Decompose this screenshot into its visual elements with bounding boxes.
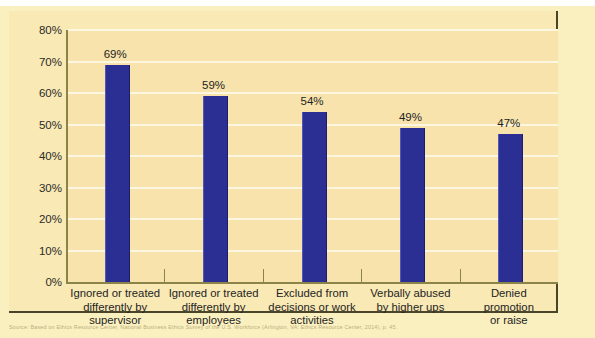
gridline [68, 61, 558, 63]
bar [105, 65, 130, 282]
source-note: Source: Based on Ethics Resource Center,… [9, 324, 589, 331]
x-axis-category-label: Verbally abusedby higher ups [370, 287, 450, 314]
gridline [68, 92, 558, 94]
y-axis-tick-label: 80% [10, 24, 62, 36]
x-axis-category-label: Ignored or treateddifferently byemployee… [169, 287, 259, 328]
bar-value-label: 47% [497, 117, 520, 129]
y-axis-tick-label: 10% [10, 245, 62, 257]
x-axis-category-line: differently by [169, 301, 259, 315]
bar [400, 128, 425, 282]
y-axis-tick-label: 40% [10, 150, 62, 162]
x-axis-category-line: by higher ups [370, 301, 450, 315]
y-axis-tick-label: 50% [10, 119, 62, 131]
bar [203, 96, 228, 282]
bar-chart-card: 80%70%60%50%40%30%20%10%0% 69%59%54%49%4… [9, 11, 558, 313]
y-axis-tick-labels: 80%70%60%50%40%30%20%10%0% [9, 11, 62, 313]
bar-value-label: 54% [300, 95, 323, 107]
x-axis-category-line: Denied promotion [484, 287, 534, 314]
x-axis-category-line: Verbally abused [370, 287, 450, 301]
x-axis-category-line: Ignored or treated [169, 287, 259, 301]
x-axis-tick [460, 269, 461, 282]
x-axis-line [66, 282, 558, 284]
x-axis-tick [164, 269, 165, 282]
x-axis-category-line: Excluded from [268, 287, 355, 301]
y-axis-tick-label: 70% [10, 56, 62, 68]
y-axis-tick-label: 60% [10, 87, 62, 99]
x-axis-category-line: decisions or work [268, 301, 355, 315]
chart-figure: 80%70%60%50%40%30%20%10%0% 69%59%54%49%4… [0, 0, 595, 338]
x-axis-tick [263, 269, 264, 282]
x-axis-tick [361, 269, 362, 282]
x-axis-category-label: Excluded fromdecisions or workactivities [268, 287, 355, 328]
bar-value-label: 69% [104, 48, 127, 60]
x-axis-category-line: differently by [70, 301, 160, 315]
bar-value-label: 49% [399, 111, 422, 123]
x-axis-category-label: Denied promotionor raise [484, 287, 534, 328]
y-axis-tick-label: 20% [10, 213, 62, 225]
gridline [68, 29, 558, 31]
bar [498, 134, 523, 282]
x-axis-category-label: Ignored or treateddifferently bysupervis… [70, 287, 160, 328]
x-axis-category-line: Ignored or treated [70, 287, 160, 301]
bar [302, 112, 327, 282]
plot-area [66, 30, 558, 282]
y-axis-tick-label: 30% [10, 182, 62, 194]
bar-value-label: 59% [202, 79, 225, 91]
y-axis-tick-label: 0% [10, 276, 62, 288]
